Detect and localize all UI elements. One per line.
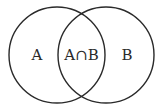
set-b-label: B	[121, 46, 132, 64]
venn-diagram: A A∩B B	[0, 0, 162, 109]
set-a-label: A	[31, 46, 43, 64]
intersection-label: A∩B	[63, 46, 98, 64]
